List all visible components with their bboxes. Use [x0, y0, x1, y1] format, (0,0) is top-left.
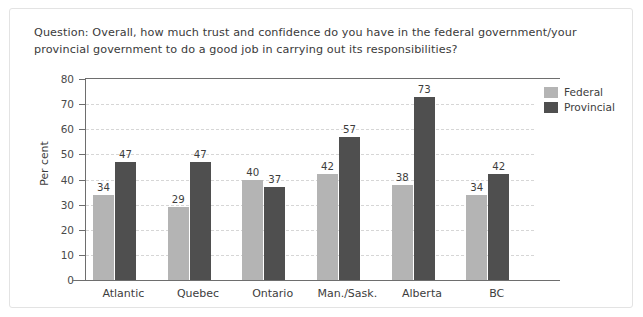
bar-value-label: 37 [268, 174, 281, 185]
bar-federal: 42 [317, 174, 338, 280]
bar-group: 3873 [385, 79, 460, 280]
bar-value-label: 47 [119, 149, 132, 160]
y-axis-tick-mark [79, 230, 85, 231]
bar-federal: 40 [242, 180, 263, 281]
bar-chart: Per cent 01020304050607080 3447294740374… [10, 65, 634, 305]
question-caption: Question: Overall, how much trust and co… [34, 25, 594, 58]
bar-federal: 29 [168, 207, 189, 280]
y-axis-tick-mark [79, 79, 85, 80]
chart-figure: Question: Overall, how much trust and co… [9, 8, 633, 308]
bar-group: 4257 [310, 79, 385, 280]
bar-group: 3442 [459, 79, 534, 280]
bar-federal: 34 [93, 195, 114, 280]
y-axis-tick-mark [79, 154, 85, 155]
bar-value-label: 57 [343, 124, 356, 135]
y-axis-tick-mark [79, 104, 85, 105]
y-axis-tick-label: 70 [50, 98, 74, 110]
bar-value-label: 40 [246, 167, 259, 178]
bar-value-label: 34 [97, 182, 110, 193]
bar-provincial: 57 [339, 137, 360, 280]
bar-value-label: 29 [172, 194, 185, 205]
y-axis-tick-mark [79, 205, 85, 206]
bar-group: 2947 [161, 79, 236, 280]
bar-provincial: 73 [414, 97, 435, 280]
bar-value-label: 38 [396, 172, 409, 183]
x-axis-tick-label: BC [452, 287, 542, 300]
y-axis-tick-label: 0 [50, 274, 74, 286]
y-axis-tick-label: 60 [50, 123, 74, 135]
y-axis-tick-mark [79, 180, 85, 181]
bar-value-label: 47 [194, 149, 207, 160]
bar-provincial: 47 [115, 162, 136, 280]
y-axis-tick-label: 10 [50, 249, 74, 261]
y-axis-tick-mark [79, 280, 85, 281]
chart-legend: Federal Provincial [544, 85, 615, 115]
bar-value-label: 73 [418, 84, 431, 95]
bar-federal: 34 [466, 195, 487, 280]
bar-provincial: 37 [264, 187, 285, 280]
bar-provincial: 47 [190, 162, 211, 280]
y-axis-tick-label: 40 [50, 174, 74, 186]
x-axis-line [72, 280, 560, 281]
bar-value-label: 42 [321, 161, 334, 172]
y-axis-tick-label: 50 [50, 148, 74, 160]
bar-federal: 38 [392, 185, 413, 280]
legend-label-federal: Federal [564, 86, 603, 98]
legend-item-provincial: Provincial [544, 100, 615, 114]
legend-swatch-federal [544, 87, 558, 98]
legend-item-federal: Federal [544, 85, 615, 99]
legend-label-provincial: Provincial [564, 101, 615, 113]
bar-value-label: 42 [492, 161, 505, 172]
bar-group: 4037 [235, 79, 310, 280]
y-axis-tick-label: 80 [50, 73, 74, 85]
y-axis-tick-mark [79, 129, 85, 130]
y-axis-tick-label: 30 [50, 199, 74, 211]
y-axis-tick-labels: 01020304050607080 [48, 65, 74, 305]
bar-group: 3447 [86, 79, 161, 280]
bar-provincial: 42 [488, 174, 509, 280]
y-axis-tick-label: 20 [50, 224, 74, 236]
plot-area: 344729474037425738733442 [86, 79, 534, 280]
y-axis-tick-mark [79, 255, 85, 256]
legend-swatch-provincial [544, 102, 558, 113]
bar-value-label: 34 [470, 182, 483, 193]
